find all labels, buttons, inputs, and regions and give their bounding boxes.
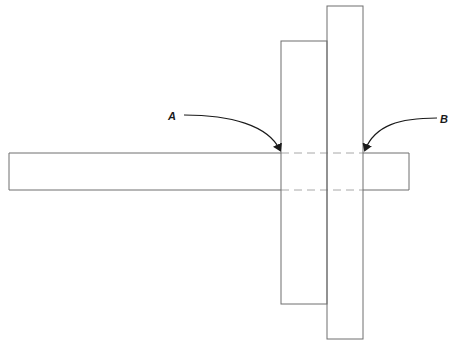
arrow-b — [365, 118, 437, 150]
label-b: B — [440, 113, 448, 125]
label-a: A — [167, 110, 176, 122]
arrow-a — [184, 115, 280, 150]
diagram-canvas: A B — [0, 0, 452, 348]
horizontal-bar — [9, 153, 409, 190]
tall-plate — [327, 6, 363, 339]
hidden-bar-lines — [281, 153, 363, 190]
middle-plate — [281, 41, 327, 304]
